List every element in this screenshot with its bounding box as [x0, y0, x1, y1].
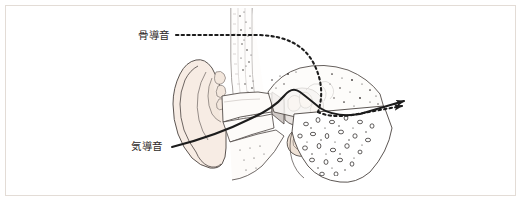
ear-anatomy-diagram: 骨導音 気導音 [0, 0, 522, 202]
air-conduction-label: 気導音 [131, 140, 163, 152]
figure-root: 骨導音 気導音 [0, 0, 522, 202]
pinna [173, 60, 226, 169]
bone-conduction-label: 骨導音 [138, 29, 170, 41]
mastoid-bone [290, 106, 392, 182]
